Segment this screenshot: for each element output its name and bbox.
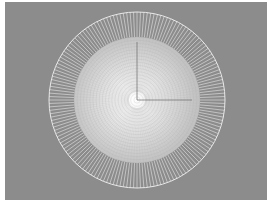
ring-spoke [113, 161, 120, 185]
ring-spoke [200, 90, 225, 93]
ring-spoke [198, 76, 222, 83]
ring-spoke [64, 51, 85, 65]
ring-spoke [154, 161, 161, 185]
ring-spoke [189, 135, 210, 149]
ring-spoke [51, 115, 75, 121]
ring-spoke [64, 135, 85, 149]
ring-spoke [191, 54, 212, 67]
ring-spoke [200, 102, 225, 103]
ring-spoke [60, 131, 82, 143]
ring-spoke [152, 14, 158, 38]
ring-spoke [172, 27, 186, 48]
ring-spoke [200, 93, 225, 95]
ring-spoke [192, 131, 214, 143]
ring-spoke [154, 15, 161, 39]
ring-spoke [192, 57, 214, 69]
ring-spoke [88, 152, 102, 173]
ring-spoke [139, 163, 140, 188]
ring-spoke [134, 12, 135, 37]
ring-spoke [88, 27, 102, 48]
ring-spoke [139, 12, 140, 37]
ring-spoke [200, 97, 225, 98]
ring-spoke [198, 79, 222, 85]
ring-spoke [94, 23, 106, 45]
ring-spoke [50, 107, 75, 110]
ring-spoke [116, 14, 122, 38]
mesh-scene [5, 2, 267, 200]
ring-spoke [113, 15, 120, 39]
ring-spoke [198, 115, 222, 121]
ring-spoke [50, 90, 75, 93]
ring-spoke [144, 163, 147, 188]
ring-spoke [170, 154, 183, 175]
ring-spoke [144, 13, 147, 38]
ring-spoke [60, 57, 82, 69]
ring-spoke [91, 25, 104, 46]
ring-spoke [170, 25, 183, 46]
ring-spoke [168, 23, 180, 45]
ring-spoke [189, 51, 210, 65]
ring-spoke [49, 93, 74, 95]
ring-spoke [62, 133, 83, 146]
ring-spoke [52, 117, 76, 124]
ring-spoke [49, 105, 74, 107]
ring-spoke [172, 152, 186, 173]
ring-spoke [94, 155, 106, 177]
ring-spoke [127, 163, 130, 188]
ring-spoke [134, 163, 135, 188]
ring-spoke [52, 76, 76, 83]
ring-spoke [168, 155, 180, 177]
ring-spoke [116, 161, 122, 185]
ring-spoke [152, 161, 158, 185]
ring-spoke [62, 54, 83, 67]
ring-spoke [198, 117, 222, 124]
3d-viewport[interactable] [5, 2, 267, 200]
ring-spoke [142, 12, 144, 37]
ring-spoke [51, 79, 75, 85]
ring-spoke [49, 102, 74, 103]
ring-spoke [130, 12, 132, 37]
ring-spoke [130, 163, 132, 188]
ring-spoke [142, 163, 144, 188]
ring-spoke [127, 13, 130, 38]
ring-spoke [200, 107, 225, 110]
ring-spoke [191, 133, 212, 146]
ring-spoke [200, 105, 225, 107]
ring-spoke [91, 154, 104, 175]
ring-spoke [49, 97, 74, 98]
